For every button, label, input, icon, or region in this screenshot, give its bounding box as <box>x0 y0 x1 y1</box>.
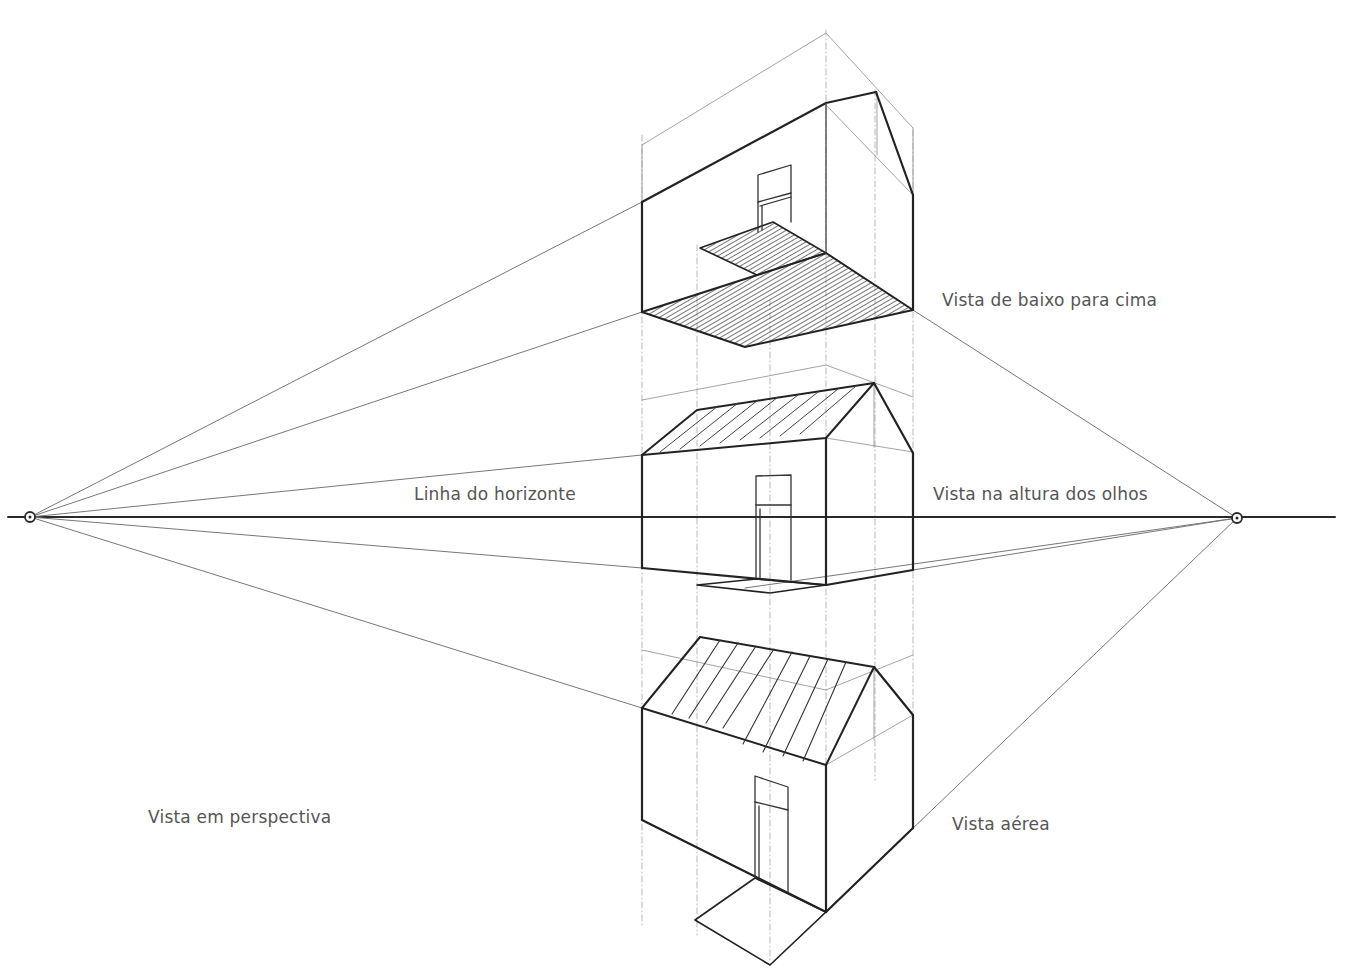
label-perspective-view: Vista em perspectiva <box>148 807 331 827</box>
vanishing-point-left <box>25 512 35 522</box>
vanishing-point-right <box>1232 513 1242 523</box>
right-vp-lines <box>745 310 1237 965</box>
perspective-diagram: Vista de baixo para cima Linha do horizo… <box>0 0 1350 971</box>
worms-eye-house <box>642 33 913 347</box>
label-eye-level-view: Vista na altura dos olhos <box>933 484 1148 504</box>
eye-level-house <box>642 365 913 593</box>
label-horizon-line: Linha do horizonte <box>414 484 576 504</box>
aerial-house <box>642 637 913 965</box>
left-vp-lines <box>30 202 642 708</box>
label-worms-eye-view: Vista de baixo para cima <box>942 290 1157 310</box>
label-aerial-view: Vista aérea <box>952 814 1050 834</box>
